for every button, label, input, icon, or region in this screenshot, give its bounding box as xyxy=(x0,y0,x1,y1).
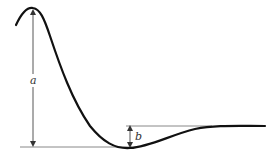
label-b: b xyxy=(135,130,142,143)
diagram-canvas: a b xyxy=(0,0,280,155)
label-a: a xyxy=(30,74,37,87)
response-curve xyxy=(16,8,265,148)
